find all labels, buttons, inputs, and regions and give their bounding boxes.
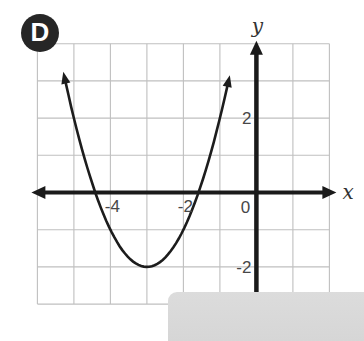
choice-d-badge: D [21,14,59,52]
x-tick-label: -4 [105,197,120,216]
answer-choice-card: -4-22-20xy D [0,0,364,341]
x-axis-left-arrowhead [31,186,45,199]
y-tick-label: 2 [242,109,251,128]
curve-left-arrowhead [61,72,70,85]
x-axis-name-label: x [342,180,353,204]
y-axis-arrowhead [250,41,263,55]
y-axis-name-label: y [251,14,264,38]
origin-label: 0 [241,198,250,217]
next-card-edge [168,292,364,341]
x-tick-label: -2 [178,197,193,216]
choice-d-label: D [31,19,50,45]
curve-right-arrowhead [223,75,232,88]
y-tick-label: -2 [236,258,251,277]
parabola-graph: -4-22-20xy [0,0,364,341]
